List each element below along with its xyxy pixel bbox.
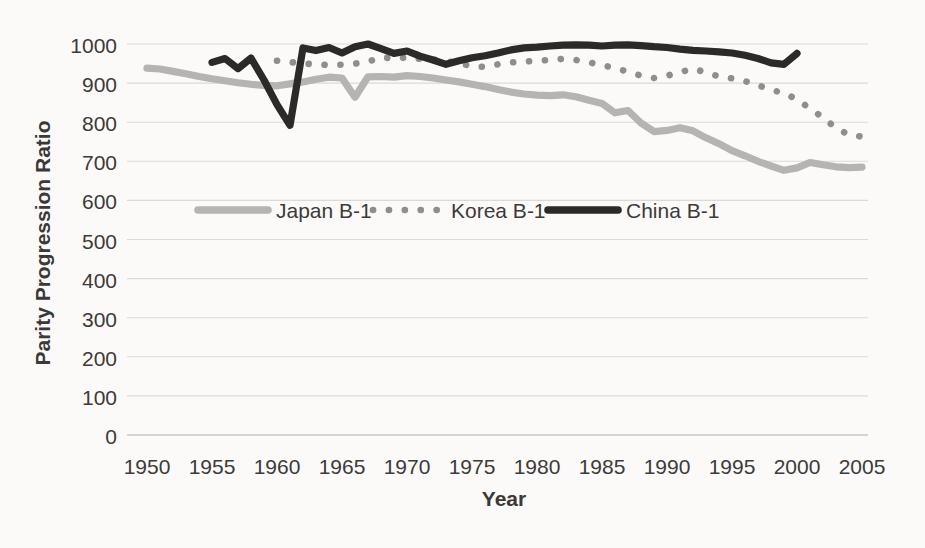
x-tick-label: 1960 — [254, 455, 301, 478]
legend-label-korea-b-1: Korea B-1 — [451, 199, 546, 222]
x-tick-label: 1985 — [579, 455, 626, 478]
x-tick-label: 1965 — [319, 455, 366, 478]
y-tick-label: 200 — [82, 347, 117, 370]
x-tick-label: 1990 — [644, 455, 691, 478]
y-tick-label: 400 — [82, 269, 117, 292]
x-tick-label: 2005 — [839, 455, 886, 478]
y-tick-label: 300 — [82, 308, 117, 331]
y-tick-label: 1000 — [70, 34, 117, 57]
x-tick-label: 1975 — [449, 455, 496, 478]
x-tick-label: 2000 — [774, 455, 821, 478]
legend-label-japan-b-1: Japan B-1 — [276, 199, 372, 222]
chart-figure: 0100200300400500600700800900100019501955… — [0, 0, 925, 548]
y-axis-title: Parity Progression Ratio — [31, 120, 55, 365]
x-axis-title: Year — [482, 487, 526, 511]
x-tick-label: 1955 — [189, 455, 236, 478]
series-line-china-b-1 — [212, 44, 797, 125]
x-tick-label: 1980 — [514, 455, 561, 478]
legend-label-china-b-1: China B-1 — [626, 199, 719, 222]
y-tick-label: 700 — [82, 151, 117, 174]
x-tick-label: 1950 — [124, 455, 171, 478]
chart-canvas: 0100200300400500600700800900100019501955… — [0, 0, 925, 548]
y-tick-label: 600 — [82, 190, 117, 213]
y-tick-label: 500 — [82, 230, 117, 253]
y-tick-label: 800 — [82, 112, 117, 135]
y-tick-label: 100 — [82, 386, 117, 409]
x-tick-label: 1970 — [384, 455, 431, 478]
x-tick-label: 1995 — [709, 455, 756, 478]
y-tick-label: 900 — [82, 73, 117, 96]
y-tick-label: 0 — [105, 425, 117, 448]
